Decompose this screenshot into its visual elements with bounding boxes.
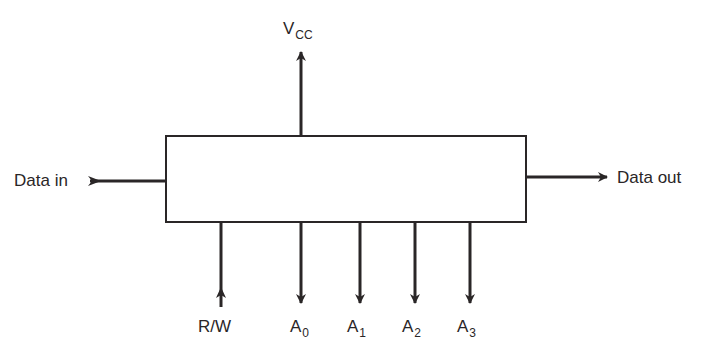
a2-label: A2 [402,318,421,335]
a3-sub: 3 [469,326,476,340]
a0-sub: 0 [302,326,309,340]
a3-base: A [457,317,468,336]
a2-sub: 2 [414,326,421,340]
vcc-base: V [283,19,294,38]
a1-base: A [347,317,358,336]
data-in-label: Data in [14,172,68,189]
a3-label: A3 [457,318,476,335]
diagram-canvas [0,0,717,359]
a1-sub: 1 [359,326,366,340]
a1-label: A1 [347,318,366,335]
data-out-label: Data out [617,169,681,186]
a0-label: A0 [290,318,309,335]
vcc-label: VCC [283,20,313,37]
a2-base: A [402,317,413,336]
data-in-arrowhead-icon [88,176,101,186]
memory-block [166,136,526,222]
a0-base: A [290,317,301,336]
rw-label: R/W [198,318,231,335]
vcc-sub: CC [295,28,312,42]
